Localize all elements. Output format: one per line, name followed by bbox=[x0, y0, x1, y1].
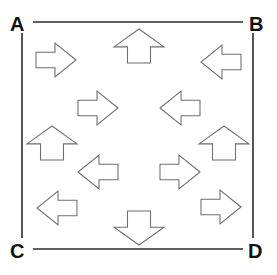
arrow-inner-lower-left bbox=[78, 155, 118, 189]
corner-label-b: B bbox=[249, 14, 263, 34]
arrow-top-right bbox=[201, 45, 241, 79]
arrow-top-center bbox=[114, 29, 164, 63]
corner-label-d: D bbox=[248, 241, 262, 261]
arrow-layer bbox=[27, 29, 249, 245]
arrow-inner-upper-right bbox=[160, 91, 200, 125]
arrow-bottom-left bbox=[37, 191, 77, 225]
arrow-inner-upper-left bbox=[78, 91, 118, 125]
diagram-canvas: A B C D bbox=[0, 0, 277, 275]
arrow-top-left bbox=[36, 43, 76, 77]
corner-label-c: C bbox=[10, 241, 24, 261]
arrow-bottom-right bbox=[201, 190, 241, 224]
arrow-bottom-center bbox=[114, 211, 164, 245]
arrow-right-middle bbox=[199, 126, 249, 160]
corner-label-a: A bbox=[10, 14, 24, 34]
arrow-diagram-figure bbox=[0, 0, 277, 275]
arrow-inner-lower-right bbox=[160, 155, 200, 189]
arrow-left-middle bbox=[27, 126, 77, 160]
